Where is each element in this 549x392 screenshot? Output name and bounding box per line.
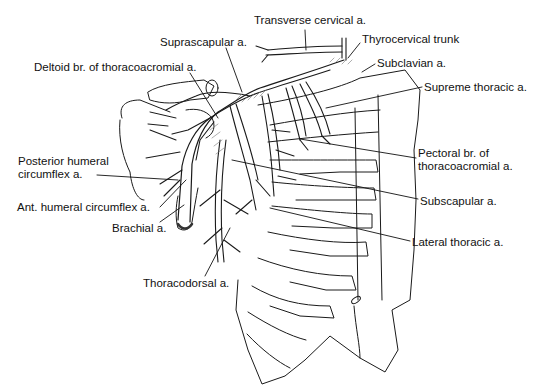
- label-text: Deltoid br. of thoracoacromial a.: [34, 61, 196, 74]
- label-thoracodorsal: Thoracodorsal a.: [143, 277, 229, 290]
- label-text: Subscapular a.: [420, 195, 497, 208]
- label-brachial: Brachial a.: [112, 222, 166, 235]
- label-text: Pectoral br. of: [418, 147, 513, 160]
- label-thyrocervical-trunk: Thyrocervical trunk: [362, 33, 459, 46]
- label-transverse-cervical: Transverse cervical a.: [254, 14, 366, 27]
- label-text: Subclavian a.: [377, 57, 446, 70]
- label-subscapular: Subscapular a.: [420, 195, 497, 208]
- label-text: Posterior humeral: [18, 155, 109, 168]
- label-posterior-humeral-circumflex: Posterior humeral circumflex a.: [18, 155, 109, 181]
- label-supreme-thoracic: Supreme thoracic a.: [424, 81, 527, 94]
- leader-suprascapular: [226, 48, 242, 92]
- leader-thyrocervical-trunk: [348, 43, 360, 58]
- label-text: Ant. humeral circumflex a.: [17, 201, 150, 214]
- label-lateral-thoracic: Lateral thoracic a.: [412, 236, 503, 249]
- rib-cage: [236, 70, 420, 384]
- label-text: Suprascapular a.: [160, 36, 247, 49]
- label-suprascapular: Suprascapular a.: [160, 36, 247, 49]
- leader-thoracodorsal: [205, 228, 230, 276]
- label-subclavian: Subclavian a.: [377, 57, 446, 70]
- label-text: Lateral thoracic a.: [412, 236, 503, 249]
- anatomy-figure: Transverse cervical a. Suprascapular a. …: [0, 0, 549, 392]
- label-text: Transverse cervical a.: [254, 14, 366, 27]
- label-text: thoracoacromial a.: [418, 160, 513, 173]
- muscle-shading: [210, 58, 352, 154]
- leader-subscapular: [232, 160, 418, 199]
- label-pectoral-branch: Pectoral br. of thoracoacromial a.: [418, 147, 513, 173]
- leader-pectoral-branch: [300, 139, 416, 158]
- label-text: circumflex a.: [18, 168, 109, 181]
- label-ant-humeral-circumflex: Ant. humeral circumflex a.: [17, 201, 150, 214]
- leader-posterior-humeral-circumflex: [97, 175, 178, 180]
- leader-subclavian: [362, 64, 375, 72]
- label-deltoid-branch: Deltoid br. of thoracoacromial a.: [34, 61, 196, 74]
- leader-supreme-thoracic: [326, 87, 422, 108]
- label-text: Thoracodorsal a.: [143, 277, 229, 290]
- label-text: Thyrocervical trunk: [362, 33, 459, 46]
- label-text: Brachial a.: [112, 222, 166, 235]
- label-text: Supreme thoracic a.: [424, 81, 527, 94]
